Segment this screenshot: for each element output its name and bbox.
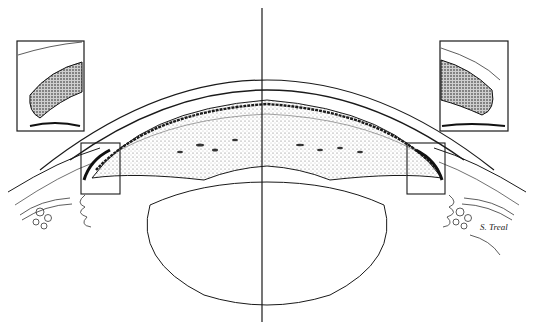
sclera-line [434,148,526,192]
artist-signature: S. Treal [480,222,508,232]
left-angle-inset [17,41,84,131]
iris [92,100,442,180]
lens [147,182,387,305]
eye-cross-section-diagram [0,0,534,330]
sclera-line [8,148,100,192]
right-angle-inset [440,41,508,131]
ciliary-body-left [20,195,91,229]
